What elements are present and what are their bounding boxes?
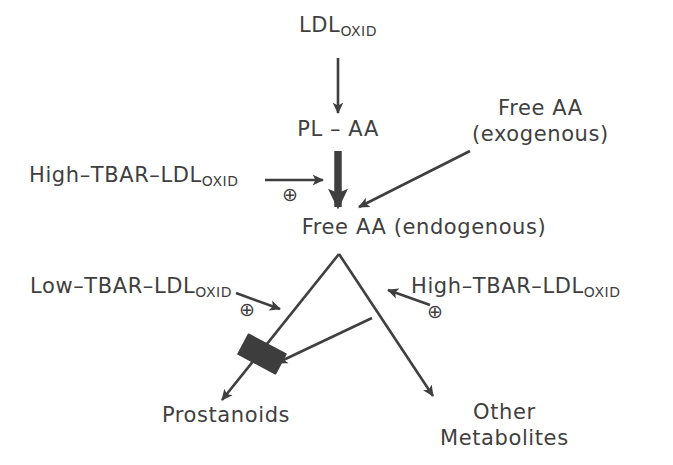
node-free-aa-endogenous: Free AA (endogenous) bbox=[302, 216, 547, 240]
stimulation-symbol-release: ⊕ bbox=[282, 185, 298, 204]
node-pl-aa: PL – AA bbox=[297, 118, 379, 142]
arrow-exogenous-to-freeaa bbox=[359, 151, 470, 207]
arrow-shunt-to-block bbox=[277, 318, 372, 363]
node-free-aa-exogenous-line2: (exogenous) bbox=[472, 122, 609, 148]
node-other-metabolites: Other Metabolites bbox=[440, 400, 569, 451]
stimulation-symbol-prostanoids: ⊕ bbox=[239, 300, 255, 319]
node-high-tbar-ldl-oxid-left: High–TBAR–LDLOXID bbox=[29, 164, 238, 188]
stimulation-symbol-other-metabolites: ⊕ bbox=[427, 302, 443, 321]
diagram-canvas: LDLOXID PL – AA Free AA (exogenous) High… bbox=[0, 0, 673, 465]
node-prostanoids: Prostanoids bbox=[162, 404, 290, 428]
node-high-tbar-right-subscript: OXID bbox=[584, 284, 621, 300]
node-low-tbar-subscript: OXID bbox=[195, 284, 232, 300]
node-ldl-oxid-subscript: OXID bbox=[340, 23, 377, 39]
node-low-tbar-ldl-oxid: Low–TBAR–LDLOXID bbox=[30, 275, 232, 299]
node-high-tbar-ldl-oxid-right: High–TBAR–LDLOXID bbox=[411, 275, 620, 299]
node-high-tbar-left-subscript: OXID bbox=[202, 173, 239, 189]
node-ldl-oxid: LDLOXID bbox=[299, 14, 377, 38]
node-high-tbar-right-label: High–TBAR–LDL bbox=[411, 274, 584, 298]
node-other-metabolites-line1: Other bbox=[440, 400, 569, 426]
node-low-tbar-label: Low–TBAR–LDL bbox=[30, 274, 195, 298]
node-prostanoids-label: Prostanoids bbox=[162, 403, 290, 427]
arrow-freeaa-to-prostanoids bbox=[222, 254, 339, 400]
node-ldl-oxid-label: LDL bbox=[299, 13, 340, 37]
node-other-metabolites-line2: Metabolites bbox=[440, 426, 569, 452]
node-free-aa-exogenous-line1: Free AA bbox=[472, 96, 609, 122]
inhibition-block-symbol bbox=[237, 333, 287, 375]
node-free-aa-exogenous: Free AA (exogenous) bbox=[472, 96, 609, 147]
node-high-tbar-left-label: High–TBAR–LDL bbox=[29, 163, 202, 187]
node-free-aa-endogenous-label: Free AA (endogenous) bbox=[302, 215, 547, 239]
node-pl-aa-label: PL – AA bbox=[297, 117, 379, 141]
